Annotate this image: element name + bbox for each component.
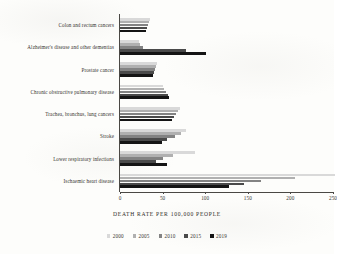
x-tick-label: 50 bbox=[160, 195, 165, 201]
category-label: Trachea, bronchus, lung cancers bbox=[45, 111, 114, 117]
x-axis-line bbox=[120, 192, 333, 193]
bar-2019[interactable] bbox=[120, 141, 162, 144]
bar-2019[interactable] bbox=[120, 52, 206, 55]
legend-label: 2015 bbox=[190, 233, 201, 239]
legend-swatch-icon bbox=[107, 234, 110, 237]
bar-group bbox=[120, 107, 333, 121]
category-label: Prostate cancer bbox=[81, 67, 114, 73]
legend-label: 2000 bbox=[113, 233, 124, 239]
plot-area bbox=[120, 14, 333, 192]
x-tick-mark bbox=[163, 192, 164, 194]
legend-item-2005[interactable]: 2005 bbox=[133, 233, 150, 239]
legend-item-2015[interactable]: 2015 bbox=[184, 233, 201, 239]
x-tick-label: 200 bbox=[286, 195, 294, 201]
bar-2019[interactable] bbox=[120, 74, 153, 77]
category-label: Colon and rectum cancers bbox=[59, 22, 115, 28]
bar-group bbox=[120, 40, 333, 54]
bar-group bbox=[120, 18, 333, 32]
legend-swatch-icon bbox=[159, 234, 162, 237]
x-tick-mark bbox=[120, 192, 121, 194]
x-tick-mark bbox=[205, 192, 206, 194]
legend-label: 2005 bbox=[139, 233, 150, 239]
legend-item-2010[interactable]: 2010 bbox=[159, 233, 176, 239]
bar-2019[interactable] bbox=[120, 119, 172, 122]
x-tick-label: 0 bbox=[119, 195, 122, 201]
x-axis-title: DEATH RATE PER 100,000 PEOPLE bbox=[0, 211, 334, 217]
x-tick-mark bbox=[290, 192, 291, 194]
bar-2019[interactable] bbox=[120, 30, 146, 33]
legend-item-2000[interactable]: 2000 bbox=[107, 233, 124, 239]
category-label: Ischaemic heart disease bbox=[64, 178, 114, 184]
x-tick-label: 100 bbox=[201, 195, 209, 201]
category-axis-labels: Colon and rectum cancersAlzheimer's dise… bbox=[0, 14, 117, 192]
x-tick-label: 250 bbox=[329, 195, 337, 201]
legend-item-2019[interactable]: 2019 bbox=[210, 233, 227, 239]
bar-2019[interactable] bbox=[120, 163, 167, 166]
chart-legend: 20002005201020152019 bbox=[0, 233, 334, 239]
bar-group bbox=[120, 85, 333, 99]
category-label: Lower respiratory infections bbox=[53, 156, 114, 162]
legend-swatch-icon bbox=[184, 234, 187, 237]
bar-group bbox=[120, 129, 333, 143]
category-label: Chronic obstructive pulmonary disease bbox=[31, 89, 114, 95]
x-tick-mark bbox=[333, 192, 334, 194]
y-axis-line bbox=[119, 14, 120, 192]
legend-swatch-icon bbox=[210, 234, 213, 237]
bar-2019[interactable] bbox=[120, 96, 169, 99]
bar-group bbox=[120, 62, 333, 76]
bar-group bbox=[120, 174, 333, 188]
bar-2019[interactable] bbox=[120, 185, 229, 188]
category-label: Alzheimer's disease and other dementias bbox=[27, 44, 114, 50]
legend-swatch-icon bbox=[133, 234, 136, 237]
bar-group bbox=[120, 151, 333, 165]
legend-label: 2010 bbox=[164, 233, 175, 239]
category-label: Stroke bbox=[100, 133, 114, 139]
legend-label: 2019 bbox=[216, 233, 227, 239]
x-tick-label: 150 bbox=[244, 195, 252, 201]
x-tick-mark bbox=[248, 192, 249, 194]
